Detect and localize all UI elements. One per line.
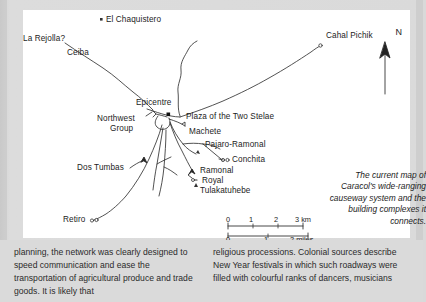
map-figure: La Rejolla? El Chaquistero Cahal Pichik … (23, 10, 410, 238)
map-label-la-rejolla: La Rejolla? (23, 34, 65, 44)
map-label-epicentre: Epicentre (136, 98, 172, 108)
site-marker-el-chaquistero (100, 18, 103, 21)
site-marker-conchita-b (226, 158, 229, 161)
map-label-northwest-group-line1: Northwest (97, 114, 135, 124)
map-label-conchita: Conchita (232, 155, 265, 165)
site-marker-retiro-a (90, 219, 93, 222)
map-label-royal: Royal (202, 176, 223, 186)
causeway-south-b (159, 130, 166, 196)
map-label-plaza-of-the-two-stelae: Plaza of the Two Stelae (186, 112, 274, 122)
causeway-cahal-pichik (180, 46, 320, 117)
site-marker-tulakatuhebe (194, 183, 198, 187)
causeway-dos-tumbas-spur (130, 160, 144, 168)
site-marker-retiro-b (95, 218, 98, 221)
scale-km-label-1: 1 (249, 215, 253, 224)
map-label-el-chaquistero: El Chaquistero (106, 15, 161, 25)
site-marker-pajaro (196, 150, 200, 154)
map-caption-line-2: Caracol's wide-ranging (311, 181, 426, 192)
scale-km-label-3: 3 km (295, 215, 311, 224)
causeway-northwest-stub-b (146, 112, 152, 116)
compass-north-label: N (396, 27, 403, 37)
scale-km-label-2: 2 (274, 215, 278, 224)
map-label-machete: Machete (189, 127, 221, 137)
map-label-northwest-group-line2: Group (110, 124, 133, 134)
map-caption-line-4: building complexes it (311, 204, 426, 215)
map-label-retiro: Retiro (63, 215, 85, 225)
map-caption-line-5: connects. (311, 216, 426, 227)
map-caption: The current map of Caracol's wide-rangin… (311, 170, 426, 227)
map-label-ceiba: Ceiba (67, 48, 89, 58)
body-text-region: planning, the network was clearly design… (0, 240, 423, 302)
map-label-pajaro-ramonal: Pajaro-Ramonal (205, 140, 266, 150)
causeway-epicentre-loop (155, 116, 170, 129)
map-caption-line-1: The current map of (311, 170, 426, 181)
map-label-dos-tumbas: Dos Tumbas (77, 163, 124, 173)
map-label-cahal-pichik: Cahal Pichik (326, 31, 373, 41)
site-marker-royal-dot (192, 179, 195, 182)
site-marker-epicentre (167, 113, 171, 117)
map-label-ramonal: Ramonal (200, 166, 233, 176)
body-text-right-column: religious processions. Colonial sources … (213, 246, 403, 285)
scale-km-label-0: 0 (226, 215, 230, 224)
body-text-left-column: planning, the network was clearly design… (14, 246, 204, 298)
map-label-tulakatuhebe: Tulakatuhebe (200, 186, 251, 196)
causeway-pajaro-spur (183, 143, 203, 144)
site-marker-cahal-pichik (319, 44, 322, 47)
causeway-south-b-spur (164, 167, 177, 175)
map-caption-line-3: causeway system and the (311, 193, 426, 204)
causeway-north-branch (178, 41, 197, 116)
